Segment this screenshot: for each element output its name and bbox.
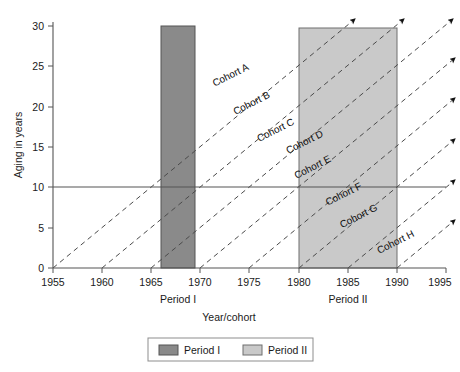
y-tick-label-15: 15 — [32, 141, 44, 153]
x-tick-label-1990: 1990 — [385, 276, 409, 288]
x-axis-title: Year/cohort — [202, 311, 255, 323]
bar-period-2 — [299, 28, 397, 268]
legend-label-period-1: Period I — [184, 344, 220, 356]
axis-period-1-label: Period I — [160, 293, 196, 305]
x-tick-label-1965: 1965 — [139, 276, 163, 288]
legend-swatch-period-2 — [243, 345, 262, 355]
x-tick-label-1980: 1980 — [287, 276, 311, 288]
y-tick-label-0: 0 — [38, 262, 44, 274]
bar-period-1 — [161, 26, 195, 268]
chart-legend: Period I Period II — [148, 338, 313, 361]
x-tick-label-1995: 1995 — [428, 276, 452, 288]
y-tick-label-5: 5 — [38, 222, 44, 234]
y-tick-label-10: 10 — [32, 181, 44, 193]
legend-swatch-period-1 — [159, 345, 178, 355]
x-tick-label-1970: 1970 — [188, 276, 212, 288]
y-axis-title: Aging in years — [12, 112, 24, 179]
x-tick-label-1960: 1960 — [90, 276, 114, 288]
y-tick-label-25: 25 — [32, 60, 44, 72]
chart-container: 0 5 10 15 20 25 30 1955 1960 1965 1970 1… — [0, 0, 460, 372]
x-tick-label-1975: 1975 — [237, 276, 261, 288]
aging-cohort-chart: 0 5 10 15 20 25 30 1955 1960 1965 1970 1… — [0, 0, 460, 372]
y-tick-label-30: 30 — [32, 20, 44, 32]
axis-period-2-label: Period II — [328, 293, 367, 305]
x-tick-label-1985: 1985 — [336, 276, 360, 288]
legend-label-period-2: Period II — [268, 344, 307, 356]
y-tick-label-20: 20 — [32, 101, 44, 113]
x-tick-label-1955: 1955 — [41, 276, 65, 288]
